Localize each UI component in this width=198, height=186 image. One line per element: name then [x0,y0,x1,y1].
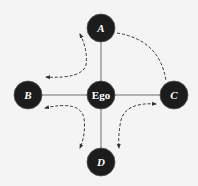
diagram-canvas: A B C D Ego [0,0,198,186]
node-b-label: B [23,89,31,101]
dashed-arrow-a-b [46,34,86,77]
node-a: A [87,14,115,42]
node-a-label: A [96,22,104,34]
dashed-arrow-b-d [45,106,85,148]
node-d-label: D [96,156,105,168]
node-d: D [87,148,115,176]
node-b: B [14,81,42,109]
node-ego: Ego [87,81,115,109]
dashed-arrow-c-d [119,104,156,148]
node-c: C [160,81,188,109]
dashed-arrow-a-c [117,33,166,81]
node-ego-label: Ego [92,89,111,101]
node-c-label: C [170,89,178,101]
ego-network-diagram: A B C D Ego [0,0,198,186]
